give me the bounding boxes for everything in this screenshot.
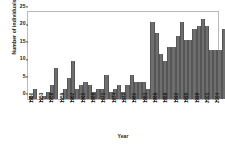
x-tick-label: 1992 (175, 93, 180, 103)
x-tick-label: 1953 (40, 93, 45, 103)
x-axis-ticks: 1950195319561959196219651968197119741977… (27, 100, 219, 130)
x-tick-label: 1956 (50, 93, 55, 103)
bar (222, 29, 225, 99)
x-axis-title: Year (27, 133, 219, 139)
y-tick-label: 15 (20, 39, 28, 44)
x-tick-label: 1983 (144, 93, 149, 103)
x-tick-label: 1959 (61, 93, 66, 103)
x-tick-label: 1962 (71, 93, 76, 103)
y-tick-label: 0 (23, 91, 28, 96)
bar-chart: Number of individuals 0510152025 1950195… (0, 0, 225, 146)
x-tick-label: 2004 (216, 93, 221, 103)
bar-slot (222, 12, 225, 99)
y-tick-label: 25 (20, 4, 28, 9)
y-axis-title: Number of individuals (11, 0, 17, 65)
x-tick-label: 1965 (82, 93, 87, 103)
x-tick-label: 1977 (123, 93, 128, 103)
plot-area: 0510152025 (27, 11, 219, 100)
y-tick-label: 20 (20, 22, 28, 27)
x-tick-label: 1998 (196, 93, 201, 103)
bar-series (28, 12, 218, 99)
x-tick-label: 2001 (206, 93, 211, 103)
y-tick-label: 5 (23, 74, 28, 79)
x-tick-label: 1968 (92, 93, 97, 103)
x-tick-label: 1980 (133, 93, 138, 103)
x-tick-label: 1995 (185, 93, 190, 103)
x-tick-label: 1989 (164, 93, 169, 103)
x-tick-label: 1986 (154, 93, 159, 103)
x-tick-label: 1950 (30, 93, 35, 103)
y-tick-label: 10 (20, 57, 28, 62)
x-tick-label: 1971 (102, 93, 107, 103)
x-tick-label: 1974 (113, 93, 118, 103)
